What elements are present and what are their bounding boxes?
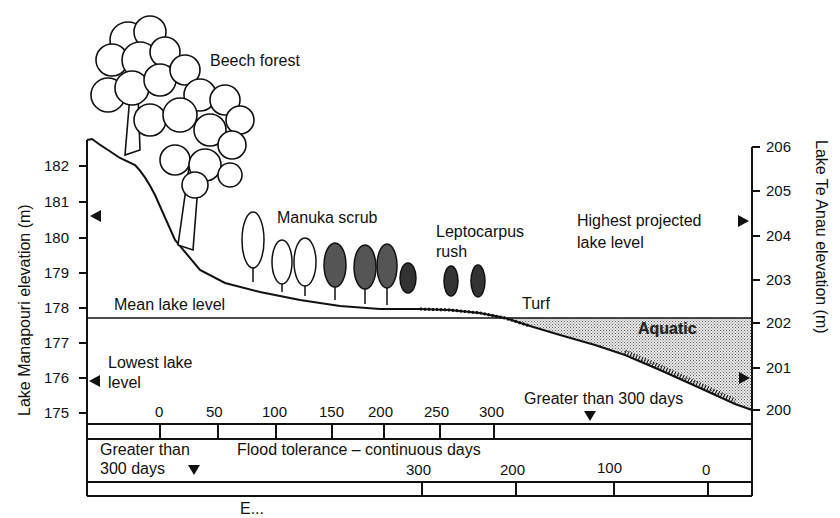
gt300-left-marker-icon [188,465,200,475]
label-manuka-scrub: Manuka scrub [277,209,378,227]
top-scale-300: 300 [479,404,504,420]
right-tick-202: 202 [766,315,791,331]
lowest-level-marker-left-icon [89,375,100,387]
left-tick-181: 181 [44,194,69,210]
right-tick-206: 206 [766,139,791,155]
left-tick-175: 175 [44,405,69,421]
right-axis-ticks [752,147,760,410]
bottom-scale-100: 100 [597,460,622,476]
left-axis-title: Lake Manapouri elevation (m) [16,204,34,416]
label-leptocarpus: Leptocarpus [436,223,524,241]
right-tick-205: 205 [766,183,791,199]
top-scale-50: 50 [206,404,223,420]
label-highest-projected: Highest projected [577,212,702,230]
left-tick-182: 182 [44,158,69,174]
bottom-scale-200: 200 [500,462,525,478]
label-gt300-left-2: 300 days [100,460,165,478]
right-tick-204: 204 [766,228,791,244]
highest-level-marker-left-icon [90,210,101,222]
label-beech-forest: Beech forest [210,52,300,70]
left-tick-176: 176 [44,370,69,386]
left-axis-ticks [79,166,87,413]
top-scale-100: 100 [262,404,287,420]
leptocarpus-rush-icon [444,265,485,297]
label-highest-lake-level: lake level [577,234,644,252]
right-tick-200: 200 [766,402,791,418]
right-axis-title: Lake Te Anau elevation (m) [812,140,830,334]
left-tick-179: 179 [44,265,69,281]
top-scale-200: 200 [368,404,393,420]
highest-level-marker-right-icon [738,215,749,227]
right-tick-203: 203 [766,272,791,288]
label-turf: Turf [522,295,550,313]
right-tick-201: 201 [766,360,791,376]
top-scale-0: 0 [155,404,163,420]
label-lowest-level: level [108,374,141,392]
label-gt300-left-1: Greater than [100,441,190,459]
label-lowest-lake: Lowest lake [108,354,193,372]
gt300-right-marker-icon [584,411,596,421]
label-gt300-right: Greater than 300 days [524,390,683,408]
bottom-scale-300: 300 [406,462,431,478]
label-aquatic: Aquatic [638,320,697,338]
top-scale-250: 250 [424,404,449,420]
left-tick-178: 178 [44,300,69,316]
top-scale-150: 150 [319,404,344,420]
left-tick-177: 177 [44,335,69,351]
bottom-scale-0: 0 [702,462,710,478]
caption-cutoff: E... [240,500,264,518]
left-tick-180: 180 [44,230,69,246]
flood-tolerance-bars [87,424,752,496]
label-mean-lake-level: Mean lake level [114,296,225,314]
label-flood-tolerance: Flood tolerance – continuous days [237,441,481,459]
label-rush: rush [436,243,467,261]
